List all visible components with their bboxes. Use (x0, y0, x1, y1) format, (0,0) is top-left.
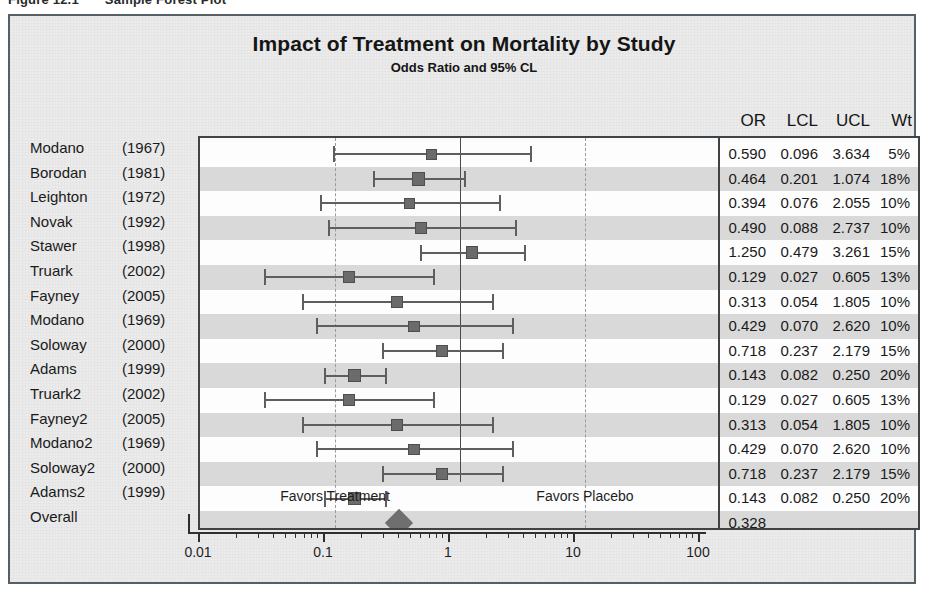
forest-row (200, 437, 718, 462)
study-label-row: Adams(1999) (30, 357, 198, 382)
cell-lcl: 0.237 (780, 462, 818, 487)
axis-tick-minor (304, 533, 305, 538)
cell-wt: 10% (880, 314, 910, 339)
axis-tick-minor (567, 533, 568, 538)
ci-cap-upper (515, 220, 517, 236)
forest-row (200, 314, 718, 339)
cell-ucl: 3.261 (832, 240, 870, 265)
cell-wt: 18% (880, 167, 910, 192)
ci-cap-lower (320, 195, 322, 211)
cell-wt: 15% (880, 462, 910, 487)
study-label-column: Modano(1967)Borodan(1981)Leighton(1972)N… (30, 136, 198, 530)
study-year: (2000) (122, 456, 165, 481)
cell-lcl: 0.201 (780, 167, 818, 192)
axis-tick-minor (420, 533, 421, 538)
table-row: 0.1430.0820.25020% (720, 363, 918, 388)
axis-tick-minor (508, 533, 509, 538)
effect-size-marker (426, 149, 437, 160)
cell-lcl: 0.237 (780, 339, 818, 364)
study-name: Fayney2 (30, 407, 122, 432)
favors-treatment-label: Favors Treatment (280, 488, 390, 504)
axis-tick-minor (398, 533, 399, 538)
figure-caption-text: Sample Forest Plot (105, 0, 226, 7)
cell-wt: 20% (880, 486, 910, 511)
ci-cap-upper (524, 245, 526, 261)
study-label-row: Borodan(1981) (30, 161, 198, 186)
axis-tick-major (698, 533, 700, 542)
forest-row (200, 388, 718, 413)
axis-tick-major (198, 533, 200, 542)
cell-lcl: 0.082 (780, 486, 818, 511)
ci-cap-lower (328, 220, 330, 236)
axis-tick-minor (436, 533, 437, 538)
study-label-row: Fayney(2005) (30, 284, 198, 309)
study-year: (1998) (122, 234, 165, 259)
table-row: 0.3940.0762.05510% (720, 191, 918, 216)
axis-tick-minor (285, 533, 286, 538)
effect-size-marker (343, 394, 355, 406)
axis-line (188, 532, 706, 534)
axis-tick-minor (660, 533, 661, 538)
axis-tick-major (448, 533, 450, 542)
axis-tick-minor (442, 533, 443, 538)
effect-size-marker (391, 296, 403, 308)
effect-size-marker (408, 444, 420, 456)
study-name: Soloway (30, 333, 122, 358)
title-block: Impact of Treatment on Mortality by Stud… (10, 32, 918, 75)
axis-tick-minor (611, 533, 612, 538)
axis-tick-label: 0.1 (313, 544, 332, 560)
cell-or: 0.313 (728, 413, 766, 438)
forest-row (200, 486, 718, 511)
cell-ucl: 2.179 (832, 339, 870, 364)
study-name: Novak (30, 210, 122, 235)
study-year: (2000) (122, 333, 165, 358)
forest-plot-figure: Figure 12.1Sample Forest Plot Impact of … (0, 0, 926, 592)
study-name: Overall (30, 505, 122, 530)
study-name: Adams2 (30, 480, 122, 505)
ci-cap-upper (502, 466, 504, 482)
plot-area: Favors TreatmentFavors Placebo (200, 138, 718, 528)
axis-tick-minor (311, 533, 312, 538)
axis-tick-minor (633, 533, 634, 538)
ci-cap-lower (264, 392, 266, 408)
cell-wt: 10% (880, 437, 910, 462)
table-row: 0.5900.0963.6345% (720, 142, 918, 167)
ci-cap-upper (502, 343, 504, 359)
cell-lcl: 0.027 (780, 265, 818, 290)
study-name: Adams (30, 357, 122, 382)
cell-wt: 13% (880, 388, 910, 413)
axis-tick-minor (648, 533, 649, 538)
cell-lcl: 0.054 (780, 290, 818, 315)
study-label-row: Novak(1992) (30, 210, 198, 235)
table-row: 0.4640.2011.07418% (720, 167, 918, 192)
cell-or: 0.590 (728, 142, 766, 167)
study-year: (1992) (122, 210, 165, 235)
numeric-table-area: 0.5900.0963.6345%0.4640.2011.07418%0.394… (718, 138, 918, 528)
study-label-row: Stawer(1998) (30, 234, 198, 259)
column-header-wt: Wt (891, 111, 912, 131)
ci-cap-lower (302, 294, 304, 310)
axis-tick-label: 0.01 (184, 544, 211, 560)
cell-or: 1.250 (728, 240, 766, 265)
cell-ucl: 2.055 (832, 191, 870, 216)
cell-or: 0.313 (728, 290, 766, 315)
cell-lcl: 0.479 (780, 240, 818, 265)
axis-tick-label: 100 (686, 544, 709, 560)
table-row: 0.3130.0541.80510% (720, 413, 918, 438)
cell-wt: 15% (880, 240, 910, 265)
ci-cap-upper (499, 195, 501, 211)
column-header-ucl: UCL (836, 111, 870, 131)
table-row: 0.7180.2372.17915% (720, 462, 918, 487)
effect-size-marker (412, 172, 425, 185)
ci-cap-upper (530, 146, 532, 162)
study-label-row: Overall (30, 505, 198, 530)
chart-title: Impact of Treatment on Mortality by Stud… (10, 32, 918, 56)
ci-cap-upper (433, 269, 435, 285)
cell-ucl: 1.074 (832, 167, 870, 192)
cell-or: 0.129 (728, 388, 766, 413)
ci-cap-lower (324, 368, 326, 384)
ci-cap-lower (382, 343, 384, 359)
study-label-row: Fayney2(2005) (30, 407, 198, 432)
column-header-or: OR (741, 111, 767, 131)
cell-or: 0.490 (728, 216, 766, 241)
